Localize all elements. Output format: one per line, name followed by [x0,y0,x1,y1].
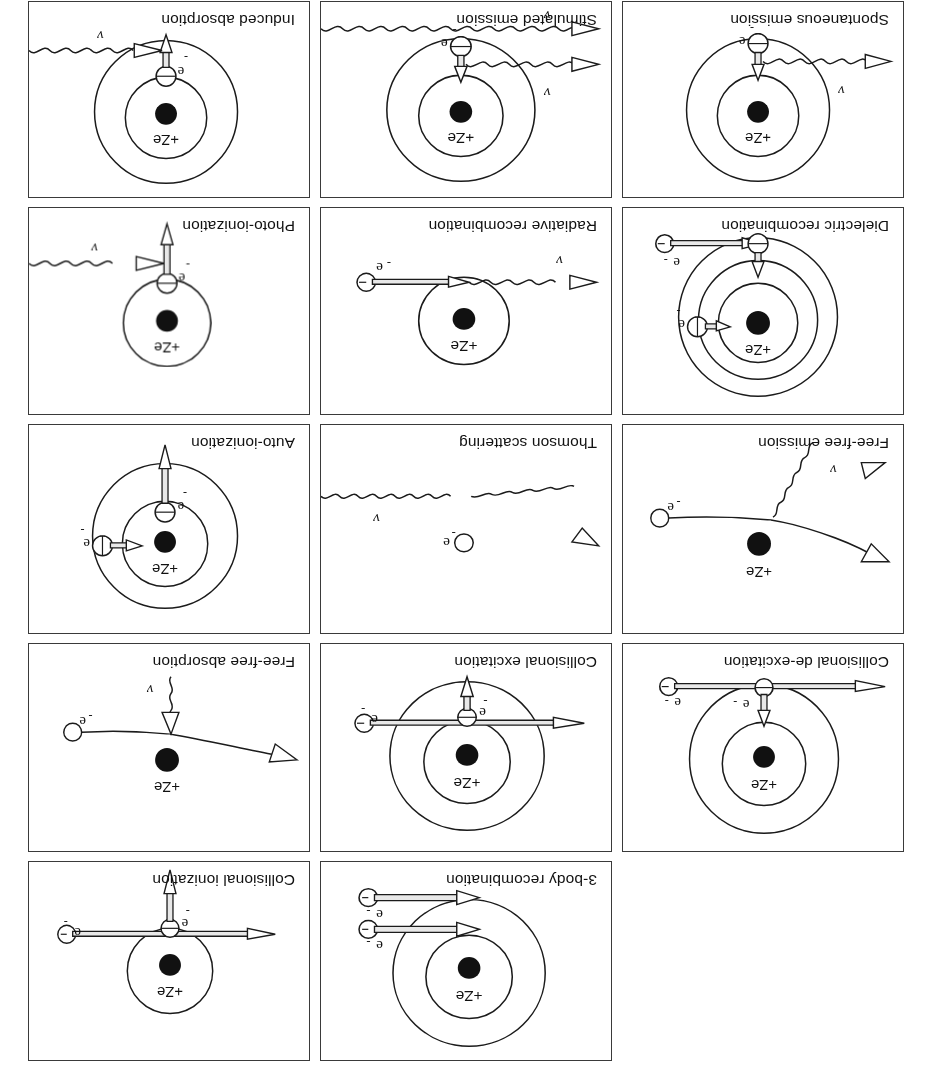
svg-text:-: - [483,694,487,708]
panel-thomson-scattering[interactable]: e - v Thomson scattering [320,424,612,634]
svg-text:-: - [366,905,370,919]
panel-label: Collisional de-excitation [724,653,889,671]
panel-three-body-recombination[interactable]: +Ze e - e - 3-body recombina [320,861,612,1061]
svg-text:e: e [178,270,185,286]
svg-text:+Ze: +Ze [152,561,178,577]
svg-text:v: v [373,511,380,527]
diagram-thomson-scattering: e - v [321,425,611,633]
svg-text:v: v [556,253,563,269]
svg-text:-: - [183,486,187,500]
svg-text:-: - [184,51,188,65]
svg-text:+Ze: +Ze [745,342,771,358]
panel-label: Thomson scattering [459,434,597,452]
svg-text:+Ze: +Ze [745,130,771,146]
panel-stimulated-emission[interactable]: +Ze e - v v Stimu [320,1,612,198]
svg-text:-: - [677,495,681,509]
panel-label: Induced absorption [161,11,295,29]
svg-text:-: - [186,257,190,271]
svg-text:e: e [443,535,450,551]
diagram-spontaneous-emission: +Ze e - v [623,2,903,197]
diagram-stimulated-emission: +Ze e - v v [321,2,611,197]
panel-label: Photo-ionization [182,217,295,235]
diagram-free-free-emission: +Ze e - v [623,425,903,633]
panel-label: 3-body recombination [446,871,597,889]
svg-text:-: - [81,523,85,537]
svg-text:e: e [479,705,486,721]
svg-text:e: e [177,64,184,80]
svg-text:v: v [544,85,551,101]
panel-label: Collisional ionization [152,871,295,889]
svg-text:+Ze: +Ze [454,775,481,792]
svg-text:-: - [361,702,365,716]
svg-text:+Ze: +Ze [456,988,483,1005]
panel-collisional-de-excitation[interactable]: +Ze e - e - Collisional de-e [622,643,904,852]
svg-text:e: e [79,714,86,730]
svg-text:v: v [97,28,104,44]
diagram-free-free-absorption: +Ze e - v [29,644,309,851]
panel-free-free-emission[interactable]: +Ze e - v Free-free emission [622,424,904,634]
svg-text:e: e [371,712,378,728]
panel-label: Stimulated emission [456,11,597,29]
svg-text:+Ze: +Ze [153,132,179,148]
panel-label: Free-free absorption [153,653,295,671]
svg-text:+Ze: +Ze [157,984,183,1000]
svg-text:e: e [376,261,383,277]
panel-empty-cell [622,861,904,1061]
panel-dielectric-recombination[interactable]: +Ze e - e - [622,207,904,415]
svg-text:v: v [830,462,837,478]
svg-text:+Ze: +Ze [154,340,180,356]
panel-label: Spontaneous emission [730,11,889,29]
figure-canvas: +Ze e - e - 3-body recombina [0,0,934,1086]
svg-text:-: - [387,256,391,270]
panel-collisional-excitation[interactable]: +Ze e - e - Collisional exci [320,643,612,852]
panel-label: Auto-ionization [191,434,295,452]
svg-text:e: e [74,925,81,941]
panel-label: Collisional excitation [454,653,597,671]
svg-text:v: v [91,241,98,257]
panel-label: Dielectric recombination [721,217,889,235]
svg-text:+Ze: +Ze [751,777,777,793]
svg-text:e: e [742,697,749,713]
diagram-auto-ionization: +Ze e - e - [29,425,309,633]
svg-text:v: v [838,83,845,99]
svg-text:e: e [678,317,685,333]
panel-photo-ionization[interactable]: +Ze e - v Photo-ionization [28,207,310,415]
svg-text:-: - [665,693,669,707]
panel-spontaneous-emission[interactable]: +Ze e - v Spontaneous emission [622,1,904,198]
svg-text:-: - [677,304,681,318]
svg-text:+Ze: +Ze [447,130,474,147]
diagram-collisional-ionization: +Ze e - e - [29,862,309,1060]
panel-collisional-ionization[interactable]: +Ze e - e - Collisional ioni [28,861,310,1061]
panel-radiative-recombination[interactable]: +Ze e - v Radiative recombination [320,207,612,415]
svg-text:+Ze: +Ze [154,779,180,795]
svg-text:-: - [366,936,370,950]
svg-text:-: - [452,526,456,540]
svg-text:e: e [177,499,184,515]
svg-text:e: e [441,36,448,52]
diagram-three-body-recombination: +Ze e - e - [321,862,611,1060]
svg-text:e: e [673,255,680,271]
diagram-photo-ionization: +Ze e - v [29,208,309,414]
diagram-collisional-excitation: +Ze e - e - [321,644,611,851]
panel-free-free-absorption[interactable]: +Ze e - v Free-free absorption [28,643,310,852]
svg-text:-: - [89,709,93,723]
svg-text:+Ze: +Ze [450,338,477,355]
diagram-dielectric-recombination: +Ze e - e - [623,208,903,414]
process-panel-grid: +Ze e - e - 3-body recombina [26,33,904,1061]
svg-text:e: e [376,907,383,923]
svg-text:-: - [664,253,668,267]
svg-text:e: e [376,938,383,954]
svg-text:e: e [674,695,681,711]
diagram-induced-absorption: +Ze e - v [29,2,309,197]
panel-label: Radiative recombination [428,217,597,235]
diagram-radiative-recombination: +Ze e - v [321,208,611,414]
svg-text:e: e [667,500,674,516]
svg-text:+Ze: +Ze [746,564,772,580]
panel-induced-absorption[interactable]: +Ze e - v Induced absorption [28,1,310,198]
svg-text:e: e [83,536,90,552]
svg-text:-: - [733,695,737,709]
svg-text:-: - [64,916,68,930]
svg-text:v: v [146,682,153,698]
panel-auto-ionization[interactable]: +Ze e - e - Auto-ionization [28,424,310,634]
svg-text:e: e [738,34,745,50]
